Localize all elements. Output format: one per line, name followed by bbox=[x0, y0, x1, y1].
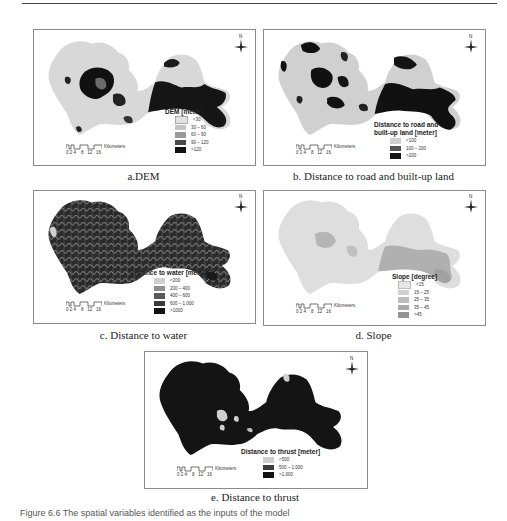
legend-item: <30 bbox=[175, 116, 209, 124]
caption-e: e. Distance to thrust bbox=[144, 491, 366, 503]
legend-slope: Slope [degree] <15 15 – 25 25 – 35 35 – … bbox=[392, 273, 437, 319]
map-panel-road-distance: N Kilometers 0 2 4 8 12 16 Distance to r… bbox=[263, 29, 486, 166]
legend-item: 200 – 400 bbox=[154, 285, 208, 293]
scale-bar: Kilometers 0 2 4 8 12 16 bbox=[66, 301, 102, 312]
scale-bar: Kilometers 0 2 4 8 12 16 bbox=[177, 466, 213, 477]
north-arrow-icon: N bbox=[234, 35, 248, 53]
legend-item: >1,000 bbox=[263, 471, 320, 479]
legend-item: <15 bbox=[398, 281, 437, 289]
legend-item: 100 – 200 bbox=[390, 145, 438, 153]
map-panel-thrust-distance: N Kilometers 0 2 4 8 12 16 Distance to t… bbox=[144, 351, 368, 489]
map-panel-slope: N Kilometers 0 2 4 8 12 16 Slope [degree… bbox=[263, 190, 486, 326]
north-arrow-icon: N bbox=[464, 35, 478, 53]
caption-d: d. Slope bbox=[263, 329, 484, 341]
legend-item: <100 bbox=[390, 137, 438, 145]
legend-dem: DEM [meter] <30 30 – 60 60 – 90 90 – 120… bbox=[165, 108, 209, 154]
legend-road-distance: Distance to road and built-up land [mete… bbox=[374, 121, 438, 160]
legend-item: >200 bbox=[390, 152, 438, 160]
north-arrow-icon: N bbox=[345, 357, 359, 375]
caption-a: a.DEM bbox=[33, 170, 254, 182]
legend-title: Distance to water [meter] bbox=[130, 269, 208, 277]
legend-item: >1000 bbox=[154, 307, 208, 315]
legend-item: <200 bbox=[154, 277, 208, 285]
legend-item: 400 – 600 bbox=[154, 292, 208, 300]
legend-item: 600 – 1,000 bbox=[154, 300, 208, 308]
legend-title: Distance to road and bbox=[374, 121, 438, 129]
legend-water-distance: Distance to water [meter] <200 200 – 400… bbox=[130, 269, 208, 315]
legend-item: >45 bbox=[398, 311, 437, 319]
legend-item: <500 bbox=[263, 456, 320, 464]
scale-bar: Kilometers 0 2 4 8 12 16 bbox=[66, 144, 102, 155]
legend-title: Slope [degree] bbox=[392, 273, 437, 281]
legend-item: 500 – 1,000 bbox=[263, 464, 320, 472]
legend-item: 35 – 45 bbox=[398, 304, 437, 312]
legend-item: 15 – 25 bbox=[398, 289, 437, 297]
legend-thrust-distance: Distance to thrust [meter] <500 500 – 1,… bbox=[241, 448, 320, 479]
legend-item: >120 bbox=[175, 146, 209, 154]
legend-title: Distance to thrust [meter] bbox=[241, 448, 320, 456]
legend-item: 60 – 90 bbox=[175, 131, 209, 139]
caption-c: c. Distance to water bbox=[33, 329, 254, 341]
legend-item: 25 – 35 bbox=[398, 296, 437, 304]
scale-bar: Kilometers 0 2 4 8 12 16 bbox=[296, 303, 332, 314]
north-arrow-icon: N bbox=[234, 195, 248, 213]
caption-b: b. Distance to road and built-up land bbox=[263, 170, 484, 182]
page-header-rule bbox=[22, 3, 497, 4]
north-arrow-icon: N bbox=[464, 195, 478, 213]
figure-caption: Figure 6.6 The spatial variables identif… bbox=[20, 508, 290, 518]
legend-title: built-up land [meter] bbox=[374, 129, 438, 137]
legend-title: DEM [meter] bbox=[165, 108, 209, 116]
map-panel-water-distance: N Kilometers 0 2 4 8 12 16 Distance to w… bbox=[33, 190, 256, 324]
map-panel-dem: N Kilometers 0 2 4 8 12 16 DEM [meter] <… bbox=[33, 29, 256, 166]
scale-bar: Kilometers 0 2 4 8 12 16 bbox=[296, 144, 332, 155]
legend-item: 90 – 120 bbox=[175, 139, 209, 147]
legend-item: 30 – 60 bbox=[175, 124, 209, 132]
